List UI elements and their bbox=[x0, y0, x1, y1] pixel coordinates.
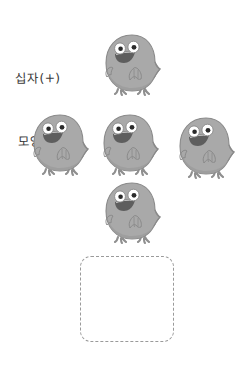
chick-pupil-left bbox=[118, 195, 123, 200]
chick-pupil-right bbox=[132, 45, 137, 50]
chick-left[interactable] bbox=[29, 112, 91, 178]
chick-pupil-right bbox=[60, 125, 65, 130]
chick-pupil-left bbox=[116, 127, 121, 132]
caption-line-1: 십자(+) bbox=[15, 67, 69, 89]
chick-pupil-left bbox=[118, 47, 123, 52]
chick-pupil-right bbox=[130, 125, 135, 130]
chick-top[interactable] bbox=[101, 32, 163, 98]
chick-figure-icon bbox=[99, 112, 161, 178]
chick-figure-icon bbox=[175, 115, 237, 181]
chick-pupil-right bbox=[206, 128, 211, 133]
answer-drop-box[interactable] bbox=[80, 256, 174, 342]
chick-pupil-left bbox=[46, 127, 51, 132]
chick-pupil-left bbox=[192, 130, 197, 135]
worksheet-page: 십자(+) 모양이야. bbox=[0, 0, 241, 370]
chick-figure-icon bbox=[101, 180, 163, 246]
chick-figure-icon bbox=[101, 32, 163, 98]
chick-bottom[interactable] bbox=[101, 180, 163, 246]
chick-center[interactable] bbox=[99, 112, 161, 178]
chick-pupil-right bbox=[132, 193, 137, 198]
chick-right[interactable] bbox=[175, 115, 237, 181]
chick-figure-icon bbox=[29, 112, 91, 178]
